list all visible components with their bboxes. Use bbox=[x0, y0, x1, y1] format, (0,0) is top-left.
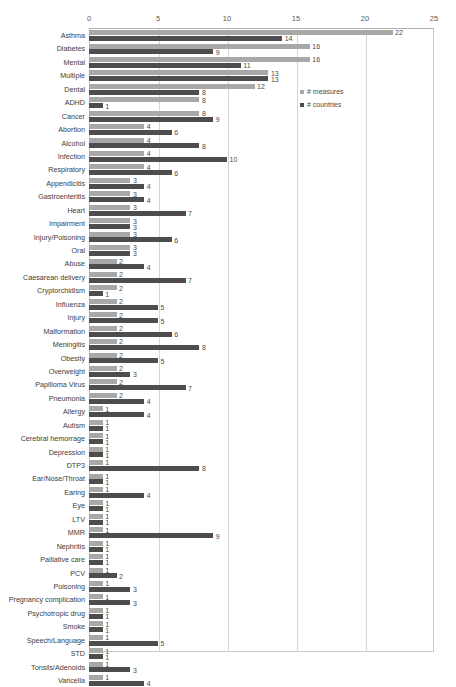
bar-countries bbox=[89, 76, 268, 81]
bar-countries bbox=[89, 63, 241, 68]
row-bars: 11 bbox=[89, 553, 434, 566]
bar-value-label: 7 bbox=[188, 385, 192, 392]
category-label: Tonsils/Adenoids bbox=[0, 661, 85, 674]
chart-row: Cerebral hemorrage11 bbox=[0, 432, 456, 445]
row-bars: 24 bbox=[89, 257, 434, 270]
bar-value-label: 2 bbox=[119, 285, 123, 292]
bar-countries bbox=[89, 264, 144, 269]
chart-row: PCV12 bbox=[0, 567, 456, 580]
bar-measures bbox=[89, 460, 103, 465]
row-bars: 89 bbox=[89, 110, 434, 123]
chart-row: Papilloma Virus27 bbox=[0, 378, 456, 391]
chart-row: Heart37 bbox=[0, 204, 456, 217]
chart-row: Influenza25 bbox=[0, 298, 456, 311]
bar-countries bbox=[89, 49, 213, 54]
category-label: Pregnancy complication bbox=[0, 593, 85, 606]
row-bars: 11 bbox=[89, 419, 434, 432]
bar-measures bbox=[89, 272, 117, 277]
row-bars: 34 bbox=[89, 190, 434, 203]
chart-row: Malformation26 bbox=[0, 325, 456, 338]
row-bars: 11 bbox=[89, 647, 434, 660]
category-label: Nephritis bbox=[0, 540, 85, 553]
row-bars: 48 bbox=[89, 137, 434, 150]
bar-countries bbox=[89, 305, 158, 310]
bar-measures bbox=[89, 299, 117, 304]
legend-label-measures: # measures bbox=[307, 88, 344, 95]
bar-value-label: 7 bbox=[188, 277, 192, 284]
row-bars: 128 bbox=[89, 83, 434, 96]
chart-row: LTV11 bbox=[0, 513, 456, 526]
bar-value-label: 8 bbox=[202, 143, 206, 150]
bar-measures bbox=[89, 648, 103, 653]
row-bars: 25 bbox=[89, 311, 434, 324]
row-bars: 169 bbox=[89, 42, 434, 55]
category-label: Alcohol bbox=[0, 137, 85, 150]
chart-row: Pregnancy complication13 bbox=[0, 593, 456, 606]
chart-row: Nephritis11 bbox=[0, 540, 456, 553]
bar-measures bbox=[89, 500, 103, 505]
bar-measures bbox=[89, 285, 117, 290]
bar-measures bbox=[89, 245, 130, 250]
bar-value-label: 5 bbox=[161, 318, 165, 325]
row-bars: 36 bbox=[89, 231, 434, 244]
bar-measures bbox=[89, 124, 144, 129]
chart-row: Psychotropic drug11 bbox=[0, 607, 456, 620]
bar-value-label: 1 bbox=[105, 654, 109, 661]
bar-measures bbox=[89, 178, 130, 183]
bar-value-label: 3 bbox=[133, 667, 137, 674]
bar-measures bbox=[89, 474, 103, 479]
chart-row: MMR19 bbox=[0, 526, 456, 539]
row-bars: 23 bbox=[89, 365, 434, 378]
bar-countries bbox=[89, 587, 130, 592]
chart-row: Injury/Poisoning36 bbox=[0, 231, 456, 244]
chart-row: Abuse24 bbox=[0, 257, 456, 270]
bar-value-label: 4 bbox=[147, 492, 151, 499]
category-label: Psychotropic drug bbox=[0, 607, 85, 620]
bar-countries bbox=[89, 681, 144, 686]
bar-value-label: 13 bbox=[271, 76, 279, 83]
category-label: PCV bbox=[0, 567, 85, 580]
category-label: Caesarean delivery bbox=[0, 271, 85, 284]
row-bars: 13 bbox=[89, 593, 434, 606]
bar-measures bbox=[89, 111, 199, 116]
row-bars: 11 bbox=[89, 607, 434, 620]
bar-measures bbox=[89, 541, 103, 546]
x-tick-label: 15 bbox=[292, 14, 300, 23]
bar-countries bbox=[89, 36, 282, 41]
bar-countries bbox=[89, 130, 172, 135]
bar-value-label: 1 bbox=[105, 439, 109, 446]
bar-countries bbox=[89, 426, 103, 431]
bar-countries bbox=[89, 332, 172, 337]
chart-row: Allergy14 bbox=[0, 405, 456, 418]
bar-measures bbox=[89, 487, 103, 492]
bar-measures bbox=[89, 447, 103, 452]
bar-value-label: 12 bbox=[257, 83, 265, 90]
row-bars: 33 bbox=[89, 244, 434, 257]
category-label: Multiple bbox=[0, 69, 85, 82]
bar-measures bbox=[89, 326, 117, 331]
bar-countries bbox=[89, 560, 103, 565]
bar-measures bbox=[89, 379, 117, 384]
legend-swatch-countries-icon bbox=[300, 103, 304, 107]
bar-value-label: 4 bbox=[147, 264, 151, 271]
bar-value-label: 6 bbox=[174, 331, 178, 338]
bar-measures bbox=[89, 97, 199, 102]
row-bars: 25 bbox=[89, 352, 434, 365]
bar-countries bbox=[89, 399, 144, 404]
bar-countries bbox=[89, 278, 186, 283]
bar-measures bbox=[89, 353, 117, 358]
bar-measures bbox=[89, 57, 310, 62]
bar-countries bbox=[89, 143, 199, 148]
row-bars: 15 bbox=[89, 634, 434, 647]
bar-value-label: 1 bbox=[105, 291, 109, 298]
category-label: Depression bbox=[0, 446, 85, 459]
row-bars: 11 bbox=[89, 513, 434, 526]
bar-countries bbox=[89, 224, 130, 229]
bar-measures bbox=[89, 568, 103, 573]
bar-value-label: 5 bbox=[161, 640, 165, 647]
chart-row: Dental128 bbox=[0, 83, 456, 96]
category-label: Injury/Poisoning bbox=[0, 231, 85, 244]
category-label: Dental bbox=[0, 83, 85, 96]
bar-countries bbox=[89, 600, 130, 605]
row-bars: 46 bbox=[89, 163, 434, 176]
